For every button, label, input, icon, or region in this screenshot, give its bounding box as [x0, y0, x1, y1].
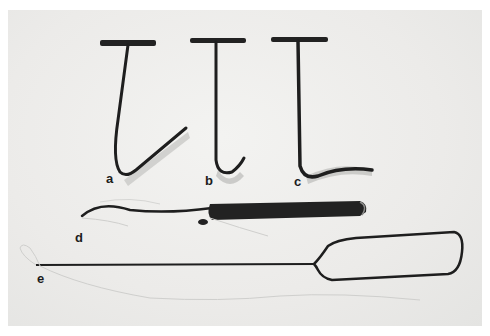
label-d: d: [75, 231, 83, 244]
photograph: a b c d e: [0, 0, 490, 336]
label-c: c: [294, 175, 301, 188]
label-a: a: [106, 172, 113, 185]
label-e: e: [37, 272, 44, 285]
instrument-d: [82, 199, 366, 236]
instrument-c: [271, 37, 372, 184]
instrument-a: [100, 40, 190, 186]
instrument-e: [20, 232, 462, 300]
label-b: b: [205, 174, 213, 187]
instruments-drawing: [0, 0, 490, 336]
instrument-b: [190, 38, 246, 184]
